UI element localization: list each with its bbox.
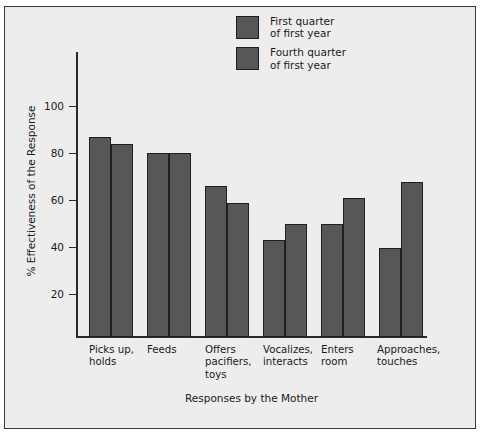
y-tick-mark-100 (69, 106, 77, 107)
y-tick-mark-40 (69, 247, 77, 248)
y-tick-mark-80 (69, 153, 77, 154)
bar-approaches-first (379, 248, 401, 337)
bar-vocalizes-fourth (285, 224, 307, 337)
chart-figure: First quarter of first year Fourth quart… (4, 6, 476, 429)
bar-offers-pacifiers-first (205, 186, 227, 337)
bar-picks-up-holds-first (89, 137, 111, 337)
y-tick-mark-20 (69, 294, 77, 295)
bar-enters-room-first (321, 224, 343, 337)
x-category-label-2: Offers pacifiers, toys (205, 344, 265, 381)
bar-approaches-fourth (401, 182, 423, 337)
x-category-label-0: Picks up, holds (89, 344, 151, 369)
y-axis-title: % Effectiveness of the Response (25, 91, 37, 291)
bar-feeds-first (147, 153, 169, 337)
bar-feeds-fourth (169, 153, 191, 337)
bar-picks-up-holds-fourth (111, 144, 133, 337)
bar-offers-pacifiers-fourth (227, 203, 249, 337)
x-axis-title: Responses by the Mother (76, 392, 427, 404)
y-tick-mark-60 (69, 200, 77, 201)
x-category-label-3: Vocalizes, interacts (263, 344, 325, 369)
bar-enters-room-fourth (343, 198, 365, 337)
plot-area: 100 80 60 40 20 % Effectiveness of the R… (5, 7, 477, 430)
x-category-label-4: Enters room (321, 344, 373, 369)
x-category-label-5: Approaches, touches (377, 344, 449, 369)
bar-vocalizes-first (263, 240, 285, 337)
x-category-label-1: Feeds (147, 344, 209, 356)
